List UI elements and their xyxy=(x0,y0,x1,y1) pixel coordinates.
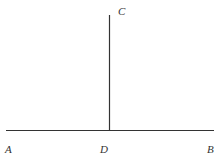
label-a: A xyxy=(4,143,12,155)
geometry-diagram: C A D B xyxy=(0,0,218,167)
label-d: D xyxy=(99,143,108,155)
label-b: B xyxy=(207,143,214,155)
label-c: C xyxy=(118,5,126,17)
